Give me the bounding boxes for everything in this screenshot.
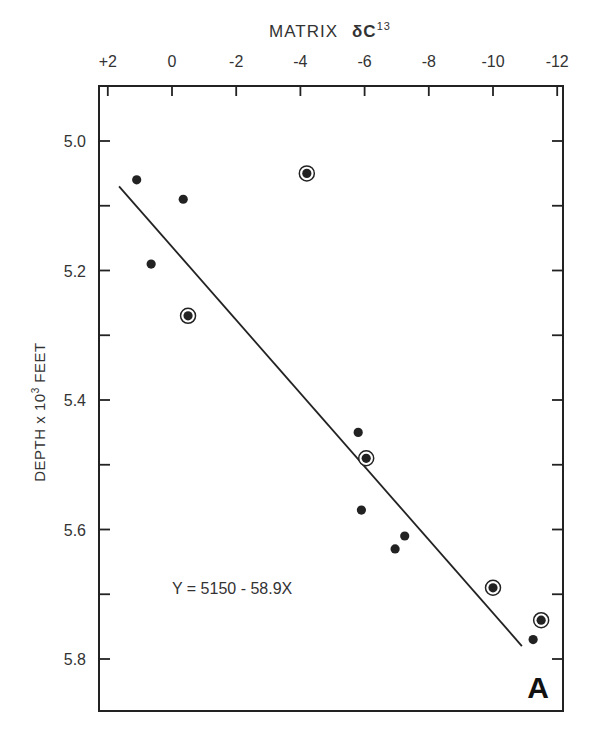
- y-axis-title: DEPTH x 103 FEET: [30, 342, 48, 481]
- x-axis-title-symbol: δC: [352, 22, 377, 41]
- circled-data-point: [486, 580, 501, 595]
- inner-dot: [183, 311, 192, 320]
- circled-data-point: [181, 308, 196, 323]
- data-point: [390, 544, 399, 553]
- y-tick-label: 5.4: [64, 392, 86, 409]
- panel-label: A: [527, 671, 549, 704]
- y-tick-label: 5.2: [64, 263, 86, 280]
- scatter-chart: +20-2-4-6-8-10-12 5.05.25.45.65.8 MATRIX…: [0, 0, 594, 733]
- x-tick-label: -4: [293, 53, 307, 70]
- circled-data-point: [359, 451, 374, 466]
- regression-line: [119, 186, 522, 646]
- inner-dot: [537, 616, 546, 625]
- x-tick-label: -2: [229, 53, 243, 70]
- x-axis-title-main: MATRIX: [269, 22, 338, 41]
- data-point: [400, 531, 409, 540]
- circled-data-point: [534, 613, 549, 628]
- x-tick-label: -6: [357, 53, 371, 70]
- x-tick-label: -8: [422, 53, 436, 70]
- x-tick-label: +2: [99, 53, 117, 70]
- data-point: [354, 428, 363, 437]
- circled-data-point: [299, 166, 314, 181]
- x-tick-label: -10: [481, 53, 504, 70]
- data-point: [147, 259, 156, 268]
- data-points: [132, 166, 549, 644]
- inner-dot: [302, 169, 311, 178]
- regression-equation: Y = 5150 - 58.9X: [172, 580, 293, 597]
- data-point: [529, 635, 538, 644]
- y-axis-title-main: DEPTH x 10: [31, 393, 48, 481]
- data-point: [179, 195, 188, 204]
- y-tick-label: 5.0: [64, 133, 86, 150]
- x-axis-ticks: +20-2-4-6-8-10-12: [99, 53, 569, 96]
- inner-dot: [362, 454, 371, 463]
- x-axis-title-superscript: 13: [377, 20, 391, 32]
- inner-dot: [488, 583, 497, 592]
- y-tick-label: 5.8: [64, 651, 86, 668]
- x-axis-title: MATRIXδC13: [269, 20, 391, 41]
- data-point: [357, 505, 366, 514]
- x-tick-label: -12: [546, 53, 569, 70]
- y-tick-label: 5.6: [64, 522, 86, 539]
- y-axis-title-tail: FEET: [31, 342, 48, 387]
- plot-frame: [99, 86, 563, 711]
- data-point: [132, 175, 141, 184]
- fit-line: [119, 186, 522, 646]
- x-tick-label: 0: [168, 53, 177, 70]
- plot-border: [99, 86, 563, 711]
